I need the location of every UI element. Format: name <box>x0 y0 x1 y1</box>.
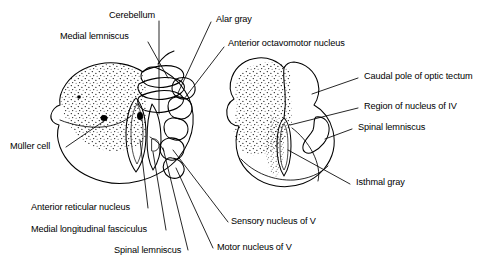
label-caudal-pole-optic-tectum: Caudal pole of optic tectum <box>364 71 473 82</box>
label-anterior-octavomotor-nucleus: Anterior octavomotor nucleus <box>228 38 345 49</box>
left-alar-gray-stipple <box>61 64 146 151</box>
label-spinal-lemniscus-right: Spinal lemniscus <box>358 122 425 133</box>
label-medial-lemniscus: Medial lemniscus <box>60 31 129 42</box>
label-cerebellum: Cerebellum <box>109 10 155 21</box>
cerebellum-lamella-1 <box>141 66 184 88</box>
leader-isthmal-gray <box>288 150 350 184</box>
label-sensory-nucleus-v: Sensory nucleus of V <box>231 216 316 227</box>
leader-sensory-nucleus-v <box>173 150 228 222</box>
muller-cell-medial <box>137 112 143 120</box>
alar-gray-lobule-upper <box>168 97 192 119</box>
label-isthmal-gray: Isthmal gray <box>356 177 405 188</box>
leader-motor-nucleus-v <box>176 168 213 248</box>
muller-cell-lateral <box>101 115 108 121</box>
muller-cell-accessory <box>77 95 81 98</box>
label-muller-cell: Müller cell <box>10 141 50 152</box>
leader-alar-gray <box>178 22 211 93</box>
cerebellum-peduncle <box>158 51 174 64</box>
label-region-nucleus-iv: Region of nucleus of IV <box>364 101 457 112</box>
right-section-group <box>227 58 334 187</box>
label-anterior-reticular-nucleus: Anterior reticular nucleus <box>31 202 130 213</box>
alar-gray-lobule-mid <box>164 118 188 140</box>
anatomical-figure: Cerebellum Medial lemniscus Alar gray An… <box>0 0 503 277</box>
right-spinal-lemniscus-hook <box>303 117 329 153</box>
leader-medial-lemniscus <box>148 42 168 78</box>
leader-anterior-octavomotor <box>184 47 224 99</box>
label-alar-gray: Alar gray <box>216 14 252 25</box>
left-section-group <box>51 51 195 183</box>
leader-spinal-lemniscus-bottom <box>163 148 188 250</box>
label-motor-nucleus-v: Motor nucleus of V <box>217 242 292 253</box>
leader-region-nucleus-iv <box>290 108 358 125</box>
label-spinal-lemniscus-bottom: Spinal lemniscus <box>114 245 181 256</box>
leader-anterior-reticular-nucleus <box>140 140 148 208</box>
label-medial-longitudinal-fasciculus: Medial longitudinal fasciculus <box>31 224 147 235</box>
